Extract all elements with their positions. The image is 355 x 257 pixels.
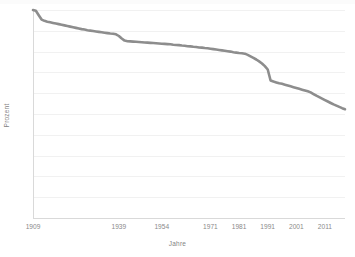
x-tick-label: 1954 — [140, 223, 184, 230]
x-tick-label: 1939 — [97, 223, 141, 230]
series-line — [33, 10, 345, 221]
plot-area: 0102030405060708090100 19091939195419711… — [33, 10, 345, 221]
line-chart: Prozent Jahre 0102030405060708090100 190… — [0, 0, 355, 257]
x-axis-title: Jahre — [0, 240, 355, 247]
cropped-title-artifact — [0, 0, 355, 4]
y-axis-title: Prozent — [3, 96, 10, 136]
x-tick-label: 1909 — [11, 223, 55, 230]
x-tick-label: 2011 — [303, 223, 347, 230]
